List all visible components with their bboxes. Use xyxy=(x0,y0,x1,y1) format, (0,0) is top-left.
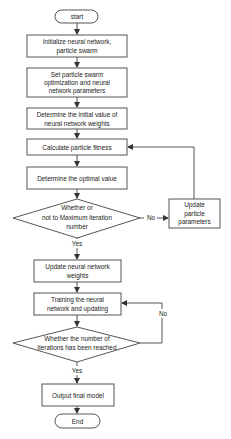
decision-iterations-reached: Whether the number of iterations has bee… xyxy=(13,327,140,362)
edge-label-d2-yes: Yes xyxy=(72,367,82,374)
decision1-label-3: number xyxy=(66,223,89,230)
update-particle-label-2: particle xyxy=(184,210,205,218)
init-weights-label-2: neural network weights xyxy=(44,120,109,128)
end-label: End xyxy=(72,418,84,425)
decision1-label-1: Whether or xyxy=(61,204,93,211)
start-node: start xyxy=(55,10,98,23)
update-particle-node: Update particle parameters xyxy=(169,199,220,228)
set-params-label-1: Set particle swarm xyxy=(51,71,104,79)
init-weights-label-1: Determine the initial value of xyxy=(37,111,118,118)
decision2-label-2: iterations has been reached xyxy=(38,344,117,351)
end-node: End xyxy=(55,414,100,428)
optimal-value-label: Determine the optimal value xyxy=(37,175,117,183)
flowchart: No Yes No Yes start Initialize neural ne… xyxy=(0,0,231,439)
edge-label-d1-yes: Yes xyxy=(72,240,82,247)
training-node: Training the neural network and updating xyxy=(34,293,121,315)
decision1-label-2: not to Maximum iteration xyxy=(42,214,112,221)
output-label: Output final model xyxy=(52,392,104,400)
start-label: start xyxy=(71,13,84,20)
init-node: Initialize neural network, particle swar… xyxy=(27,35,127,57)
set-params-node: Set particle swarm optimization and neur… xyxy=(27,68,127,97)
optimal-value-node: Determine the optimal value xyxy=(27,167,127,189)
training-label-2: network and updating xyxy=(47,305,109,313)
decision2-label-1: Whether the number of xyxy=(44,335,110,342)
init-weights-node: Determine the initial value of neural ne… xyxy=(27,108,127,129)
decision-max-iteration: Whether or not to Maximum iteration numb… xyxy=(13,199,140,238)
output-node: Output final model xyxy=(42,384,114,406)
edge-label-d1-no: No xyxy=(147,214,156,221)
edge-label-d2-no: No xyxy=(159,310,168,317)
calc-fitness-label: Calculate particle fitness xyxy=(42,144,111,152)
init-label-2: particle swarm xyxy=(56,47,97,55)
set-params-label-2: optimization and neural xyxy=(44,79,110,87)
update-weights-label-2: weights xyxy=(66,272,89,280)
set-params-label-3: network parameters xyxy=(49,87,105,95)
update-particle-label-3: parameters xyxy=(178,218,210,226)
arrow-update-loop xyxy=(128,147,194,199)
update-weights-node: Update neural network weights xyxy=(34,260,121,282)
init-label-1: Initialize neural network, xyxy=(43,38,112,45)
calc-fitness-node: Calculate particle fitness xyxy=(27,139,127,155)
update-weights-label-1: Update neural network xyxy=(45,263,110,271)
training-label-1: Training the neural xyxy=(51,296,104,304)
update-particle-label-1: Update xyxy=(184,201,205,209)
